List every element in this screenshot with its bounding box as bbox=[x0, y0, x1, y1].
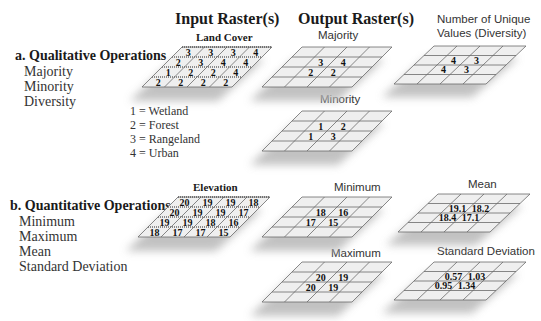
cell-value: 1.34 bbox=[458, 280, 476, 291]
cell-value: 17.1 bbox=[462, 212, 480, 223]
cell-value: 2 bbox=[341, 121, 346, 132]
cell-value: 18 bbox=[316, 207, 326, 218]
cell-value: 17 bbox=[196, 227, 206, 238]
cell-value: 3 bbox=[198, 57, 203, 68]
cell-value: 4 bbox=[451, 55, 456, 66]
elevation-grid: 20191918201919171919181618171715 bbox=[126, 197, 270, 252]
cell-value: 0.95 bbox=[435, 280, 453, 291]
mean-grid: 19.118.218.417.1 bbox=[386, 194, 530, 245]
cell-value: 18.4 bbox=[439, 212, 457, 223]
cell-value: 16 bbox=[229, 217, 239, 228]
land-cover-grid: 3334234412242222 bbox=[130, 47, 272, 102]
cell-value: 19 bbox=[216, 207, 226, 218]
cell-value: 17 bbox=[306, 217, 316, 228]
cell-value: 18 bbox=[249, 197, 259, 208]
cell-value: 20 bbox=[180, 197, 190, 208]
minority-grid: 1213 bbox=[250, 111, 392, 165]
cell-value: 4 bbox=[441, 64, 446, 75]
cell-value: 2 bbox=[331, 67, 336, 78]
cell-value: 4 bbox=[253, 47, 258, 58]
cell-value: 4 bbox=[221, 57, 226, 68]
maximum-grid: 20192019 bbox=[250, 262, 392, 316]
cell-value: 19 bbox=[203, 197, 213, 208]
cell-value: 3 bbox=[231, 47, 236, 58]
cell-value: 4 bbox=[341, 57, 346, 68]
cell-value: 2 bbox=[201, 77, 206, 88]
cell-value: 20 bbox=[316, 272, 326, 283]
cell-value: 3 bbox=[464, 64, 469, 75]
cell-value: 3 bbox=[318, 57, 323, 68]
cell-value: 2 bbox=[308, 67, 313, 78]
minimum-grid: 18161715 bbox=[250, 197, 392, 251]
cell-value: 2 bbox=[223, 77, 228, 88]
cell-value: 16 bbox=[338, 207, 348, 218]
std-dev-grid: 0.571.030.951.34 bbox=[382, 262, 526, 313]
cell-value: 4 bbox=[233, 67, 238, 78]
cell-value: 20 bbox=[170, 207, 180, 218]
cell-value: 3 bbox=[474, 55, 479, 66]
cell-value: 19 bbox=[226, 197, 236, 208]
cell-value: 2 bbox=[188, 67, 193, 78]
cell-value: 17 bbox=[239, 207, 249, 218]
majority-grid: 3422 bbox=[250, 47, 392, 101]
cell-value: 2 bbox=[176, 57, 181, 68]
cell-value: 1 bbox=[318, 121, 323, 132]
cell-value: 18 bbox=[150, 227, 160, 238]
cell-value: 15 bbox=[219, 227, 229, 238]
cell-value: 19 bbox=[160, 217, 170, 228]
cell-value: 2 bbox=[178, 77, 183, 88]
cell-value: 20 bbox=[306, 282, 316, 293]
cell-value: 18 bbox=[206, 217, 216, 228]
raster-grids: 3334234412242222342243431213201919182019… bbox=[0, 0, 541, 321]
cell-value: 19 bbox=[183, 217, 193, 228]
cell-value: 1 bbox=[308, 131, 313, 142]
cell-value: 15 bbox=[328, 217, 338, 228]
cell-value: 19 bbox=[193, 207, 203, 218]
cell-value: 19 bbox=[338, 272, 348, 283]
cell-value: 19 bbox=[328, 282, 338, 293]
cell-value: 2 bbox=[156, 77, 161, 88]
cell-value: 1 bbox=[166, 67, 171, 78]
cell-value: 4 bbox=[243, 57, 248, 68]
diversity-grid: 4343 bbox=[382, 46, 526, 97]
cell-value: 3 bbox=[186, 47, 191, 58]
cell-value: 3 bbox=[208, 47, 213, 58]
cell-value: 17 bbox=[173, 227, 183, 238]
cell-value: 2 bbox=[211, 67, 216, 78]
cell-value: 3 bbox=[331, 131, 336, 142]
